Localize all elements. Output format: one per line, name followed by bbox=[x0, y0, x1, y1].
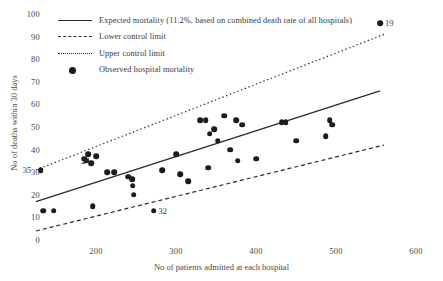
data-point[interactable] bbox=[233, 117, 239, 123]
data-point[interactable] bbox=[160, 167, 166, 173]
dotted-line-icon bbox=[58, 48, 92, 58]
data-point[interactable] bbox=[173, 151, 179, 157]
x-tick-label: 200 bbox=[81, 246, 111, 256]
legend-item: Expected mortality (11.2%, based on comb… bbox=[58, 12, 352, 29]
data-point[interactable] bbox=[221, 113, 227, 119]
data-point[interactable] bbox=[40, 208, 46, 214]
data-point-label: 35 bbox=[23, 165, 32, 175]
data-point[interactable] bbox=[253, 156, 259, 162]
x-tick-label: 500 bbox=[321, 246, 351, 256]
data-point[interactable] bbox=[323, 133, 329, 139]
legend-label: Lower control limit bbox=[99, 32, 166, 41]
data-point[interactable] bbox=[112, 169, 118, 175]
trend-line bbox=[36, 91, 380, 202]
y-tick-label: 0 bbox=[14, 235, 40, 245]
data-point[interactable] bbox=[203, 117, 209, 123]
filled-circle-icon bbox=[58, 65, 92, 75]
y-tick-label: 90 bbox=[14, 32, 40, 42]
data-point[interactable] bbox=[235, 158, 241, 164]
solid-line-icon bbox=[58, 15, 92, 25]
legend-item: Observed hospital mortality bbox=[58, 62, 352, 79]
x-tick-label: 400 bbox=[241, 246, 271, 256]
data-point[interactable] bbox=[212, 126, 218, 132]
data-point-label: 19 bbox=[385, 18, 394, 28]
chart-legend: Expected mortality (11.2%, based on comb… bbox=[58, 12, 352, 78]
data-point[interactable] bbox=[240, 122, 246, 128]
data-point[interactable] bbox=[293, 138, 299, 144]
legend-item: Lower control limit bbox=[58, 29, 352, 46]
x-tick-label: 600 bbox=[401, 246, 431, 256]
data-point[interactable] bbox=[38, 167, 44, 173]
data-point-label: 24 bbox=[81, 156, 90, 166]
legend-label: Observed hospital mortality bbox=[99, 65, 194, 74]
x-axis-title: No of patients admitted at each hospital bbox=[0, 262, 443, 272]
data-point[interactable] bbox=[129, 176, 135, 182]
data-point[interactable] bbox=[228, 147, 234, 153]
y-tick-label: 10 bbox=[14, 212, 40, 222]
x-tick-label: 300 bbox=[161, 246, 191, 256]
data-point[interactable] bbox=[151, 208, 157, 214]
data-point[interactable] bbox=[93, 154, 99, 160]
data-point[interactable] bbox=[131, 192, 137, 198]
data-point[interactable] bbox=[377, 20, 383, 26]
data-point[interactable] bbox=[207, 131, 213, 137]
data-point[interactable] bbox=[177, 172, 183, 178]
data-point-label: 32 bbox=[159, 206, 168, 216]
data-point[interactable] bbox=[185, 178, 191, 184]
dashed-line-icon bbox=[58, 32, 92, 42]
data-point[interactable] bbox=[205, 165, 211, 171]
data-point[interactable] bbox=[130, 183, 136, 189]
legend-label: Upper control limit bbox=[99, 49, 165, 58]
y-tick-label: 20 bbox=[14, 190, 40, 200]
data-point[interactable] bbox=[104, 169, 110, 175]
data-point[interactable] bbox=[215, 138, 221, 144]
y-axis-title: No of deaths within 30 days bbox=[9, 58, 19, 188]
y-tick-label: 100 bbox=[14, 9, 40, 19]
data-point[interactable] bbox=[329, 122, 335, 128]
legend-label: Expected mortality (11.2%, based on comb… bbox=[99, 16, 352, 25]
legend-item: Upper control limit bbox=[58, 45, 352, 62]
data-point[interactable] bbox=[283, 120, 289, 126]
funnel-plot-chart: 0102030405060708090100 200300400500600 3… bbox=[0, 0, 443, 281]
data-point[interactable] bbox=[90, 203, 96, 209]
data-point[interactable] bbox=[51, 208, 57, 214]
